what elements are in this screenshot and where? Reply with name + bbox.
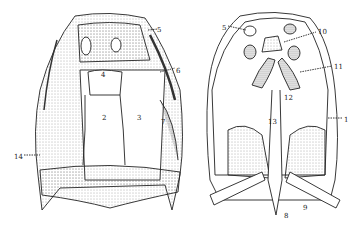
label-2: 2 xyxy=(102,115,106,122)
label-12: 12 xyxy=(284,95,293,102)
label-10: 10 xyxy=(318,29,327,36)
label-9: 9 xyxy=(303,205,307,212)
label-4: 4 xyxy=(101,72,105,79)
label-13: 13 xyxy=(268,119,277,126)
skull-illustration xyxy=(0,0,360,227)
label-11: 11 xyxy=(334,64,343,71)
label-6: 6 xyxy=(176,68,180,75)
ventral-skull xyxy=(207,12,342,215)
label-8: 8 xyxy=(284,213,288,220)
label-5: 5 xyxy=(157,27,161,34)
label-5: 5 xyxy=(222,25,226,32)
dorsal-skull xyxy=(24,13,183,210)
label-7: 7 xyxy=(161,119,165,126)
label-3: 3 xyxy=(137,115,141,122)
label-1: 1 xyxy=(344,117,348,124)
label-14: 14 xyxy=(14,154,23,161)
